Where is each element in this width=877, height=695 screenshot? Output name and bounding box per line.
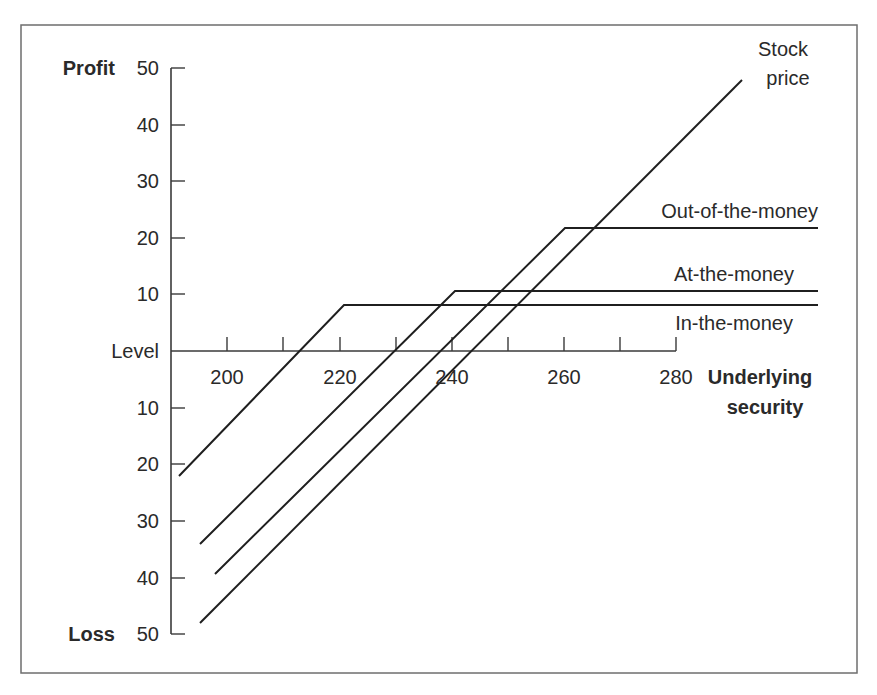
y-label-profit-50: 50 (137, 57, 159, 79)
y-axis-title-profit: Profit (63, 57, 116, 79)
label-out-of-the-money: Out-of-the-money (661, 200, 818, 222)
y-label-loss-10: 10 (137, 397, 159, 419)
y-label-profit-10: 10 (137, 283, 159, 305)
x-axis (171, 337, 676, 351)
y-tick-labels: 50 40 30 20 10 Level 10 20 30 40 50 (111, 57, 159, 645)
y-label-loss-40: 40 (137, 567, 159, 589)
x-label-260: 260 (547, 366, 580, 388)
y-label-loss-20: 20 (137, 453, 159, 475)
label-at-the-money: At-the-money (674, 263, 794, 285)
label-in-the-money: In-the-money (675, 312, 793, 334)
x-axis-title-line1: Underlying (708, 366, 812, 388)
y-axis-title-loss: Loss (68, 623, 115, 645)
x-label-240: 240 (435, 366, 468, 388)
y-label-loss-50: 50 (137, 623, 159, 645)
y-label-profit-40: 40 (137, 114, 159, 136)
x-label-280: 280 (659, 366, 692, 388)
label-stock-price-line2: price (766, 67, 809, 89)
y-label-profit-20: 20 (137, 227, 159, 249)
payoff-chart: 50 40 30 20 10 Level 10 20 30 40 50 Prof… (0, 0, 877, 695)
label-stock-price-line1: Stock (758, 38, 809, 60)
x-label-220: 220 (323, 366, 356, 388)
x-label-200: 200 (210, 366, 243, 388)
y-label-level: Level (111, 340, 159, 362)
y-label-loss-30: 30 (137, 510, 159, 532)
y-label-profit-30: 30 (137, 170, 159, 192)
x-axis-title-line2: security (727, 396, 805, 418)
